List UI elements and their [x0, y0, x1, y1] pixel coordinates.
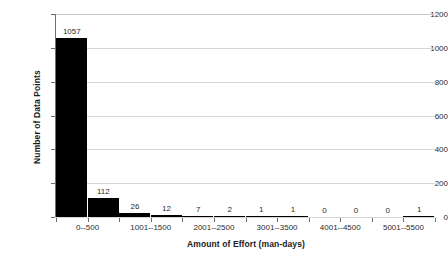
- bar: [214, 216, 245, 217]
- x-tick-label: 4001--4500: [320, 223, 361, 232]
- bar-value-label: 0: [385, 206, 389, 215]
- bar: [56, 38, 87, 217]
- x-tick-mark: [340, 218, 341, 222]
- y-tick-mark: [51, 48, 55, 49]
- bar: [403, 216, 434, 217]
- x-tick-mark: [309, 218, 310, 222]
- x-tick-mark: [277, 218, 278, 222]
- x-tick-mark: [372, 218, 373, 222]
- x-tick-mark: [88, 218, 89, 222]
- x-tick-mark: [151, 218, 152, 222]
- bar-value-label: 0: [354, 206, 358, 215]
- y-axis-title: Number of Data Points: [32, 17, 42, 217]
- gridline: [56, 14, 435, 15]
- x-tick-mark: [246, 218, 247, 222]
- plot-area: 1057112261272110001: [56, 14, 435, 217]
- gridline: [56, 116, 435, 117]
- bar: [119, 213, 150, 217]
- y-tick-mark: [51, 217, 55, 218]
- gridline: [56, 183, 435, 184]
- gridline: [56, 48, 435, 49]
- y-tick-mark: [51, 82, 55, 83]
- x-tick-label: 2001--2500: [193, 223, 234, 232]
- bar-value-label: 1: [291, 205, 295, 214]
- x-tick-label: 0--500: [76, 223, 99, 232]
- x-axis-title: Amount of Effort (man-days): [56, 239, 436, 249]
- bar-value-label: 1057: [63, 27, 81, 36]
- bar-value-label: 7: [196, 205, 200, 214]
- x-tick-mark: [56, 218, 57, 222]
- bar-value-label: 2: [227, 205, 231, 214]
- bar-value-label: 26: [131, 202, 140, 211]
- bar: [246, 216, 277, 217]
- bar: [88, 198, 119, 217]
- gridline: [56, 149, 435, 150]
- bar: [151, 215, 182, 217]
- x-tick-mark: [119, 218, 120, 222]
- x-tick-mark: [182, 218, 183, 222]
- bar-value-label: 0: [322, 206, 326, 215]
- x-tick-label: 1001--1500: [130, 223, 171, 232]
- x-tick-mark: [214, 218, 215, 222]
- x-tick-mark: [403, 218, 404, 222]
- histogram-chart: Number of Data Points 020040060080010001…: [0, 0, 448, 260]
- x-tick-label: 3001--3500: [257, 223, 298, 232]
- x-tick-mark: [435, 218, 436, 222]
- y-tick-mark: [51, 116, 55, 117]
- bar: [182, 216, 213, 217]
- bar-value-label: 1: [259, 205, 263, 214]
- bar: [277, 216, 308, 217]
- y-tick-mark: [51, 183, 55, 184]
- bar-value-label: 1: [417, 205, 421, 214]
- x-tick-label: 5001--5500: [383, 223, 424, 232]
- gridline: [56, 82, 435, 83]
- y-tick-mark: [51, 14, 55, 15]
- y-tick-mark: [51, 149, 55, 150]
- bar-value-label: 112: [97, 187, 110, 196]
- bar-value-label: 12: [162, 204, 171, 213]
